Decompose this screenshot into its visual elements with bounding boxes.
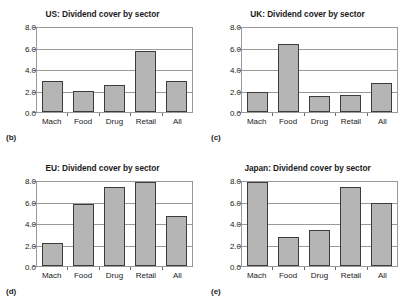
- y-tick-label: 0.0: [6, 263, 36, 272]
- bar-slot: [37, 28, 68, 112]
- panel-title: Japan: Dividend cover by sector: [205, 163, 410, 173]
- bar: [73, 204, 93, 266]
- y-tick-label: 6.0: [6, 198, 36, 207]
- panel-title: UK: Dividend cover by sector: [205, 9, 410, 19]
- plot-area: [241, 181, 398, 267]
- bar: [371, 203, 391, 266]
- bar: [104, 85, 124, 112]
- x-tick-label: All: [162, 271, 193, 280]
- bar: [309, 230, 329, 266]
- y-axis: 0.02.04.06.08.0: [0, 181, 36, 267]
- y-tick-label: 0.0: [6, 109, 36, 118]
- chart-panel-d: EU: Dividend cover by sector0.02.04.06.0…: [0, 154, 205, 308]
- y-tick-label: 0.0: [211, 263, 241, 272]
- x-tick-mark: [272, 113, 273, 116]
- x-tick-mark: [130, 113, 131, 116]
- x-tick-label: All: [162, 117, 193, 126]
- chart-panel-e: Japan: Dividend cover by sector0.02.04.0…: [205, 154, 410, 308]
- bar-slot: [273, 182, 304, 266]
- y-tick-label: 6.0: [6, 44, 36, 53]
- plot-area: [241, 27, 398, 113]
- x-tick-mark: [272, 267, 273, 270]
- x-tick-label: Food: [272, 117, 303, 126]
- x-tick-label: Food: [272, 271, 303, 280]
- bar-series: [242, 182, 397, 266]
- x-tick-label: Mach: [36, 117, 67, 126]
- x-axis-labels: MachFoodDrugRetailAll: [241, 117, 398, 126]
- x-tick-label: Retail: [130, 117, 161, 126]
- y-axis: 0.02.04.06.08.0: [0, 27, 36, 113]
- x-tick-label: Drug: [99, 117, 130, 126]
- y-tick-label: 4.0: [211, 66, 241, 75]
- bar-slot: [304, 182, 335, 266]
- x-tick-mark: [67, 113, 68, 116]
- y-tick-label: 6.0: [211, 198, 241, 207]
- bar-slot: [304, 28, 335, 112]
- x-tick-label: Mach: [241, 271, 272, 280]
- bar-series: [37, 182, 192, 266]
- x-axis-labels: MachFoodDrugRetailAll: [36, 271, 193, 280]
- bar: [278, 237, 298, 266]
- bar-slot: [130, 28, 161, 112]
- x-tick-mark: [130, 267, 131, 270]
- y-tick-label: 8.0: [6, 177, 36, 186]
- x-axis-labels: MachFoodDrugRetailAll: [241, 271, 398, 280]
- x-tick-label: All: [367, 117, 398, 126]
- y-tick-label: 4.0: [6, 66, 36, 75]
- panel-title: US: Dividend cover by sector: [0, 9, 205, 19]
- x-tick-label: Drug: [304, 271, 335, 280]
- bar: [340, 187, 360, 266]
- y-tick-label: 4.0: [211, 220, 241, 229]
- x-tick-mark: [335, 113, 336, 116]
- y-tick-label: 4.0: [6, 220, 36, 229]
- x-tick-mark: [367, 113, 368, 116]
- bar: [135, 51, 155, 112]
- x-tick-mark: [99, 113, 100, 116]
- y-tick-label: 2.0: [211, 241, 241, 250]
- bar-series: [37, 28, 192, 112]
- x-tick-label: Mach: [241, 117, 272, 126]
- panel-title: EU: Dividend cover by sector: [0, 163, 205, 173]
- x-tick-mark: [99, 267, 100, 270]
- bar-slot: [99, 182, 130, 266]
- bar: [340, 95, 360, 112]
- bar: [104, 187, 124, 266]
- bar-slot: [242, 182, 273, 266]
- figure-dividend-cover-panels: US: Dividend cover by sector0.02.04.06.0…: [0, 0, 410, 308]
- bar: [371, 83, 391, 112]
- bar: [166, 81, 186, 113]
- bar-slot: [161, 182, 192, 266]
- plot-area: [36, 181, 193, 267]
- x-tick-mark: [304, 267, 305, 270]
- y-tick-label: 0.0: [211, 109, 241, 118]
- bar: [278, 44, 298, 112]
- bar-slot: [335, 28, 366, 112]
- x-tick-mark: [162, 267, 163, 270]
- bar-slot: [366, 28, 397, 112]
- y-tick-label: 8.0: [211, 177, 241, 186]
- x-tick-label: Drug: [304, 117, 335, 126]
- panel-letter: (d): [6, 287, 16, 296]
- y-axis: 0.02.04.06.08.0: [205, 181, 241, 267]
- bar: [135, 182, 155, 266]
- y-tick-label: 6.0: [211, 44, 241, 53]
- bar: [73, 91, 93, 112]
- x-tick-mark: [367, 267, 368, 270]
- bar-slot: [242, 28, 273, 112]
- bar: [42, 81, 62, 113]
- bar-slot: [273, 28, 304, 112]
- y-tick-label: 8.0: [6, 23, 36, 32]
- bar-series: [242, 28, 397, 112]
- y-tick-label: 2.0: [6, 87, 36, 96]
- chart-panel-b: US: Dividend cover by sector0.02.04.06.0…: [0, 0, 205, 154]
- panel-letter: (c): [211, 133, 221, 142]
- x-tick-mark: [67, 267, 68, 270]
- x-tick-mark: [335, 267, 336, 270]
- y-tick-label: 2.0: [6, 241, 36, 250]
- x-tick-label: Mach: [36, 271, 67, 280]
- panel-letter: (b): [6, 133, 16, 142]
- y-tick-label: 8.0: [211, 23, 241, 32]
- bar-slot: [161, 28, 192, 112]
- bar-slot: [99, 28, 130, 112]
- x-tick-label: Drug: [99, 271, 130, 280]
